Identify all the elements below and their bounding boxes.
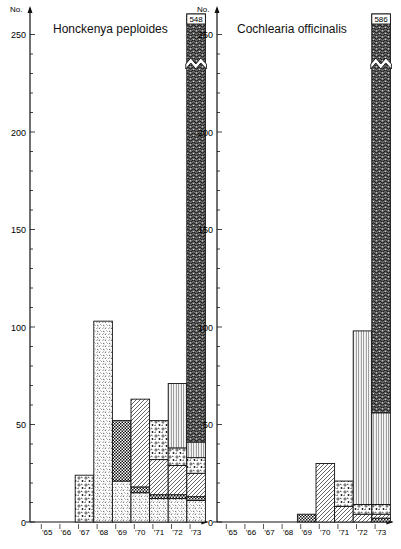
bar-segment-checker (187, 497, 206, 501)
y-tick-label: 150 (11, 225, 26, 235)
bar-total-label: 586 (374, 15, 388, 24)
x-tick-label: '72 (357, 528, 368, 537)
x-tick-label: '69 (301, 528, 312, 537)
x-tick-label: '65 (42, 528, 53, 537)
bar-segment-checker (372, 518, 391, 522)
chart-canvas: No.050100150200250'65'66'67'68'69'70'71'… (0, 0, 401, 549)
x-tick-label: '73 (376, 528, 387, 537)
bar-segment-diagonal (372, 514, 391, 518)
left-chart-title: Honckenya peploides (53, 22, 168, 36)
x-tick-label: '66 (246, 528, 257, 537)
y-tick-label: 250 (11, 30, 26, 40)
x-tick-label: '71 (154, 528, 165, 537)
y-tick-label: 250 (198, 30, 213, 40)
y-tick-label: 50 (16, 420, 26, 430)
bar-segment-vertical-lines (372, 413, 391, 505)
x-tick-label: '66 (61, 528, 72, 537)
bar-segment-vertical-lines (168, 384, 187, 448)
bar-segment-coarse-stipple (353, 504, 372, 514)
x-tick-label: '70 (135, 528, 146, 537)
bar-segment-dense-dark (372, 14, 391, 413)
y-tick-label: 100 (198, 323, 213, 333)
x-tick-label: '67 (79, 528, 90, 537)
bar-segment-fine-dash (131, 493, 150, 522)
y-tick-label: 200 (11, 128, 26, 138)
right-chart-title: Cochlearia officinalis (237, 22, 347, 36)
bar-segment-fine-dash (112, 481, 131, 522)
bar-segment-coarse-stipple (187, 458, 206, 474)
y-axis-arrow-icon (28, 6, 33, 13)
bar-segment-coarse-stipple (168, 448, 187, 466)
bar-segment-vertical-lines (187, 442, 206, 458)
bar-segment-coarse-stipple (372, 504, 391, 514)
y-tick-label: 0 (208, 518, 213, 528)
bar-segment-fine-dash (187, 501, 206, 522)
y-tick-label: 100 (11, 323, 26, 333)
bar-segment-diagonal (131, 399, 150, 487)
x-tick-label: '71 (339, 528, 350, 537)
right-chart: No.050100150200250'65'66'67'68'69'70'71'… (197, 5, 393, 537)
bar-segment-checker (168, 495, 187, 499)
bar-segment-checker (131, 487, 150, 493)
x-tick-label: '73 (191, 528, 202, 537)
bar-segment-diagonal (150, 460, 169, 495)
x-tick-label: '72 (172, 528, 183, 537)
bar-segment-diagonal (353, 514, 372, 522)
bar-segment-fine-dash (168, 499, 187, 522)
x-tick-label: '70 (320, 528, 331, 537)
bar-segment-fine-dash (94, 321, 113, 522)
bar-segment-diagonal (168, 465, 187, 494)
y-unit-label: No. (10, 5, 22, 14)
bar-segment-checker (150, 495, 169, 499)
bar-segment-coarse-stipple (75, 475, 94, 522)
y-tick-label: 0 (21, 518, 26, 528)
bar-segment-diagonal (316, 464, 335, 523)
y-tick-label: 200 (198, 128, 213, 138)
x-tick-label: '67 (264, 528, 275, 537)
bar-segment-checker (297, 514, 316, 522)
bar-segment-coarse-stipple (335, 481, 354, 506)
x-tick-label: '65 (227, 528, 238, 537)
x-tick-label: '68 (283, 528, 294, 537)
bar-segment-fine-dash (150, 499, 169, 522)
y-tick-label: 50 (203, 420, 213, 430)
x-tick-label: '69 (116, 528, 127, 537)
bar-segment-coarse-stipple (150, 421, 169, 460)
bar-segment-diagonal (187, 473, 206, 496)
y-axis-arrow-icon (215, 6, 220, 13)
y-unit-label: No. (197, 5, 209, 14)
bar-segment-diagonal (335, 506, 354, 522)
bar-total-label: 548 (189, 15, 203, 24)
y-tick-label: 150 (198, 225, 213, 235)
bar-segment-checker (112, 421, 131, 481)
x-tick-label: '68 (98, 528, 109, 537)
bar-segment-vertical-lines (353, 331, 372, 505)
left-chart: No.050100150200250'65'66'67'68'69'70'71'… (10, 5, 208, 537)
